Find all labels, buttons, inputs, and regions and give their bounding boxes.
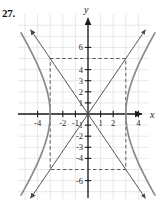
y-tick-label: 6 [79, 42, 83, 52]
y-tick-label: -2 [76, 131, 83, 141]
hyperbola-figure: 27. -4-2-112464321-1-2-3-4-6 x y [0, 0, 166, 208]
y-tick-label: 2 [79, 87, 83, 97]
y-tick-label: 3 [79, 76, 83, 86]
y-tick-label: 1 [79, 98, 83, 108]
x-tick-label: -4 [34, 118, 42, 128]
y-tick-label: -1 [76, 120, 83, 130]
x-tick-label: -2 [59, 118, 66, 128]
x-tick-label: 2 [111, 118, 115, 128]
y-axis-label: y [83, 4, 89, 15]
x-tick-label: 4 [136, 118, 141, 128]
y-tick-label: -6 [76, 176, 83, 186]
x-axis-label: x [149, 109, 155, 120]
x-tick-label: 1 [98, 118, 102, 128]
y-tick-label: -4 [76, 153, 84, 163]
y-tick-label: -3 [76, 142, 83, 152]
coordinate-plot: -4-2-112464321-1-2-3-4-6 x y [0, 0, 166, 208]
